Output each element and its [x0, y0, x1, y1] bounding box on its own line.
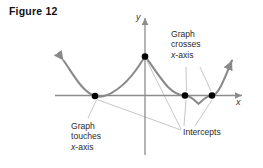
annotation-crosses-line2: crosses — [171, 39, 201, 49]
leader-line — [200, 67, 211, 91]
y-intercept — [142, 53, 149, 60]
annotation-touches-line1: Graph — [71, 121, 101, 131]
graph-plot — [0, 0, 263, 168]
annotation-touches-line2: touches — [71, 131, 101, 141]
cross-point-left — [182, 92, 189, 99]
annotation-graph-crosses: Graph crosses x-axis — [171, 29, 201, 60]
annotation-touches-line3: x-axis — [71, 142, 101, 152]
annotation-touches-axis: -axis — [75, 142, 93, 152]
annotation-intercepts: Intercepts — [183, 127, 221, 137]
cross-point-right — [209, 92, 216, 99]
leader-line — [88, 100, 97, 118]
touch-point — [92, 93, 99, 100]
annotation-graph-touches: Graph touches x-axis — [71, 121, 101, 152]
annotation-crosses-line3: x-axis — [171, 50, 201, 60]
y-axis-label: y — [136, 12, 141, 22]
annotation-crosses-line1: Graph — [171, 29, 201, 39]
annotation-crosses-axis: -axis — [175, 50, 193, 60]
figure-container: Figure 12 Graph crosses x-axis Graph tou… — [0, 0, 263, 168]
leader-line — [186, 67, 187, 91]
function-curve — [64, 57, 233, 104]
leader-line — [184, 100, 186, 126]
x-axis-label: x — [236, 97, 241, 107]
annotation-intercepts-label: Intercepts — [183, 127, 221, 137]
